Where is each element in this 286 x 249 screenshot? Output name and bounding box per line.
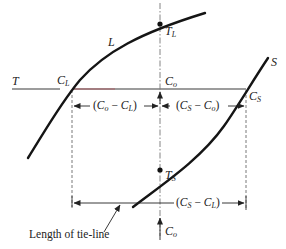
liquidus-label: L [108,36,115,48]
co-minus-cl-label: (Co − CL) [93,100,137,113]
liquidus-temp-point [157,21,162,26]
cs-minus-co-label: (CS − Co) [176,100,219,113]
solidus-curve [133,58,268,207]
temperature-label: T [12,75,19,87]
solidus-temp-point [157,167,162,172]
cs-label: CS [249,90,261,104]
tl-label: TL [165,25,176,39]
cs-minus-cl-label: (CS − CL) [176,197,220,210]
co-bottom-label: Co [165,225,177,239]
co-label: Co [165,75,177,89]
ts-label: TS [165,169,176,183]
solidus-label: S [271,56,277,68]
tie-line-diagram [0,0,286,249]
tie-line-caption: Length of tie-line [29,229,109,241]
cl-label: CL [57,74,69,88]
liquidus-curve [28,13,205,158]
